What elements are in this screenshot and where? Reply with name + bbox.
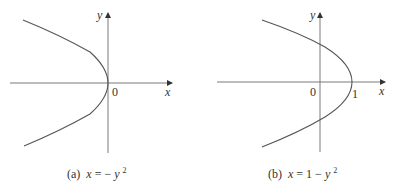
panel-b-x-label: x: [378, 84, 385, 98]
panel-b-caption-lhs: x: [287, 167, 294, 181]
panel-a-caption-rhs-var: y: [113, 167, 120, 181]
panel-a-caption-eq: =: [95, 167, 105, 181]
panel-b-y-label: y: [309, 8, 316, 22]
panel-a-caption-exp: 2: [123, 166, 127, 175]
panel-b-caption-prefix: (b): [268, 167, 282, 181]
panel-b: y x 0 1 (b) x = 1 − y 2: [217, 8, 385, 181]
panel-b-caption-rhs-pre: 1 −: [306, 167, 325, 181]
panel-b-caption-exp: 2: [333, 166, 337, 175]
panel-b-parabola: [262, 20, 352, 147]
panel-a-caption-lhs: x: [85, 167, 92, 181]
panel-a-y-label: y: [96, 8, 103, 22]
panel-b-caption-eq: =: [296, 167, 306, 181]
panel-a: y x 0 (a) x = − y 2: [10, 8, 172, 181]
panel-b-caption: (b) x = 1 − y 2: [268, 166, 337, 181]
panel-a-origin-label: 0: [112, 85, 118, 99]
panel-a-caption-rhs-pre: −: [104, 167, 111, 181]
panel-b-caption-rhs-var: y: [324, 167, 331, 181]
panel-b-vertex-label: 1: [352, 87, 358, 101]
panel-a-x-label: x: [164, 85, 171, 99]
panel-a-caption-prefix: (a): [67, 167, 80, 181]
figure-canvas: y x 0 (a) x = − y 2 y x 0 1 (b) x = 1 − …: [0, 0, 398, 185]
panel-a-caption: (a) x = − y 2: [67, 166, 127, 181]
panel-b-origin-label: 0: [310, 85, 316, 99]
